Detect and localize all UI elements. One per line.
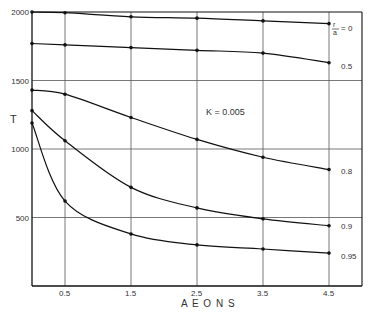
data-point — [195, 138, 199, 142]
data-point — [30, 121, 34, 125]
x-tick-label: 0.5 — [59, 289, 71, 298]
data-point — [261, 217, 265, 221]
data-point — [195, 206, 199, 210]
data-point — [63, 199, 67, 203]
data-point — [30, 88, 34, 92]
x-tick-label: 4.5 — [323, 289, 335, 298]
series-line — [32, 90, 329, 169]
x-tick-label: 3.5 — [257, 289, 269, 298]
data-point — [129, 46, 133, 50]
data-point — [30, 10, 34, 14]
series-label-0-8: 0.8 — [341, 167, 353, 176]
data-point — [129, 186, 133, 190]
data-point — [195, 243, 199, 247]
data-point — [195, 49, 199, 53]
chart: 0.51.52.53.54.5500100015002000 T A E O N… — [0, 0, 372, 317]
legend-r-over-a: r a = 0 — [332, 21, 353, 36]
x-axis-label: A E O N S — [181, 298, 236, 309]
data-point — [327, 168, 331, 172]
data-point — [327, 22, 331, 26]
data-point — [63, 43, 67, 47]
y-tick-label: 500 — [16, 214, 30, 223]
data-series — [30, 10, 331, 255]
annotation-k: K = 0.005 — [206, 107, 245, 117]
data-point — [129, 232, 133, 236]
data-point — [327, 224, 331, 228]
series-line — [32, 111, 329, 226]
legend-r-den: a — [333, 29, 337, 36]
series-label-0-5: 0.5 — [341, 62, 353, 71]
data-point — [30, 109, 34, 113]
x-tick-label: 2.5 — [191, 289, 203, 298]
data-point — [63, 92, 67, 96]
y-tick-label: 2000 — [11, 8, 29, 17]
legend-r-suffix: = 0 — [341, 24, 353, 33]
series-label-0-9: 0.9 — [341, 222, 353, 231]
data-point — [261, 247, 265, 251]
data-point — [261, 155, 265, 159]
data-point — [129, 15, 133, 19]
data-point — [261, 51, 265, 55]
series-line — [32, 44, 329, 63]
series-line — [32, 123, 329, 253]
y-tick-label: 1000 — [11, 145, 29, 154]
data-point — [30, 42, 34, 46]
data-point — [129, 116, 133, 120]
legend-r-num: r — [333, 21, 336, 28]
data-point — [261, 19, 265, 23]
series-line — [32, 12, 329, 24]
data-point — [63, 139, 67, 143]
data-point — [327, 61, 331, 65]
tick-labels: 0.51.52.53.54.5500100015002000 — [11, 8, 334, 298]
series-label-0-95: 0.95 — [341, 252, 357, 261]
y-tick-label: 1500 — [11, 77, 29, 86]
data-point — [327, 251, 331, 255]
data-point — [195, 16, 199, 20]
x-tick-label: 1.5 — [125, 289, 137, 298]
data-point — [63, 11, 67, 15]
y-axis-label: T — [10, 113, 17, 125]
